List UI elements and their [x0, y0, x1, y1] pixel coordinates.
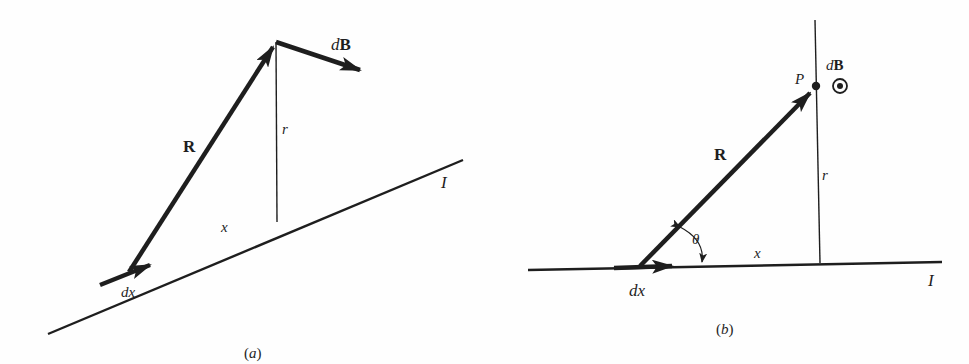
label-dx-b: dx [629, 282, 645, 299]
caption-b: (b) [716, 322, 734, 337]
vector-R-a [129, 47, 273, 272]
label-x-a: x [221, 220, 228, 235]
out-of-page-icon [833, 79, 847, 93]
panel-b [528, 20, 942, 270]
label-dB-a-B: B [340, 35, 351, 54]
vertical-line-b [815, 20, 820, 263]
label-x-b: x [754, 246, 761, 261]
wire-b [528, 262, 942, 270]
biot-savart-figure: R r dB x dx I (a) P dB R r θ x dx I (b) [0, 0, 969, 364]
label-dB-a-d: d [331, 35, 340, 54]
label-R-b: R [714, 146, 726, 163]
wire-a [48, 160, 463, 334]
label-r-b: r [822, 168, 828, 183]
dx-element-a [100, 265, 150, 285]
label-theta: θ [692, 232, 699, 247]
caption-a: (a) [244, 346, 262, 361]
label-dB-b-B: B [834, 57, 844, 73]
label-dB-a: dB [331, 36, 351, 53]
label-I-b: I [928, 272, 934, 289]
label-P: P [795, 72, 804, 87]
label-dB-b: dB [826, 58, 844, 73]
caption-b-letter: b [721, 321, 729, 337]
label-I-a: I [441, 174, 447, 191]
label-dB-b-d: d [826, 57, 834, 73]
vector-R-b [640, 93, 810, 266]
dx-element-b [614, 266, 672, 268]
caption-a-letter: a [249, 345, 257, 361]
label-R-a: R [183, 138, 195, 155]
panel-a [48, 42, 463, 334]
label-dx-a: dx [121, 285, 135, 300]
label-r-a: r [282, 122, 288, 137]
perpendicular-r-a [276, 42, 277, 222]
point-P [812, 82, 820, 90]
